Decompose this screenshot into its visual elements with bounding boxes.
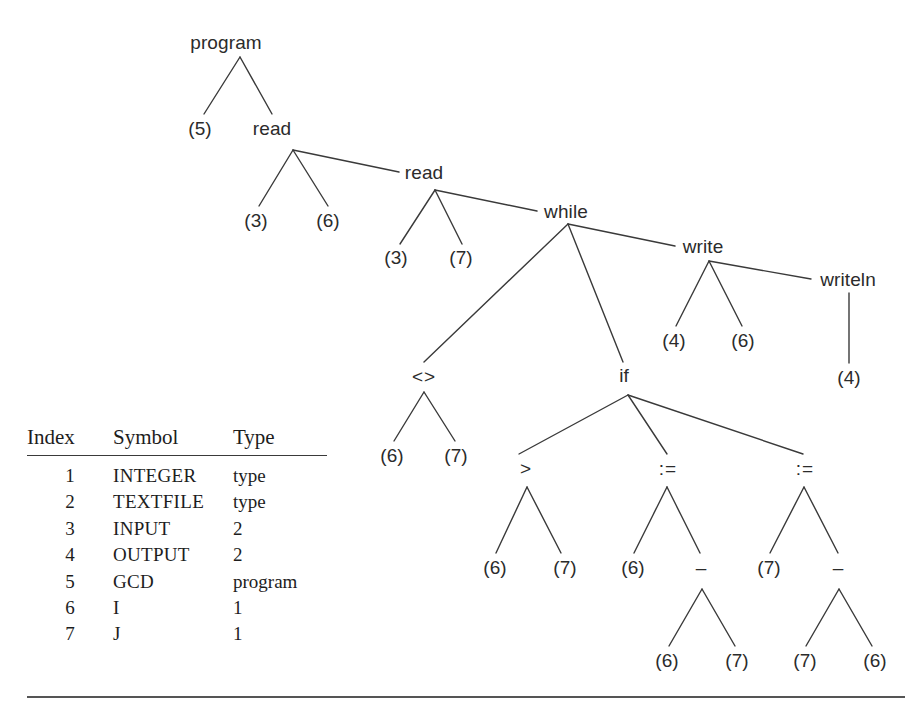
table-row: 7J1 bbox=[27, 621, 327, 647]
tree-node-write: write bbox=[683, 237, 724, 256]
tree-node-n7c: (7) bbox=[553, 558, 577, 577]
tree-edge-gt-to-n6d bbox=[496, 487, 527, 553]
tree-edge-if-to-gt bbox=[519, 395, 628, 454]
tree-edge-minus2-to-n6g bbox=[839, 589, 872, 646]
tree-edge-while-to-write bbox=[568, 224, 675, 246]
tree-edge-assign1-to-minus1 bbox=[667, 487, 700, 553]
cell-index: 2 bbox=[27, 489, 113, 515]
cell-index: 3 bbox=[27, 516, 113, 542]
tree-node-n6b: (6) bbox=[731, 331, 755, 350]
tree-edge-assign2-to-n7e bbox=[770, 487, 804, 553]
tree-node-n7d: (7) bbox=[725, 651, 749, 670]
cell-index: 1 bbox=[27, 456, 113, 490]
tree-edge-ne-to-n6c bbox=[394, 392, 424, 441]
tree-edge-ne-to-n7b bbox=[424, 392, 455, 441]
tree-edge-write-to-writeln bbox=[709, 261, 811, 279]
table-row: 5GCDprogram bbox=[27, 568, 327, 594]
tree-edge-program-to-read1 bbox=[240, 57, 272, 114]
table-row: 2TEXTFILEtype bbox=[27, 489, 327, 515]
cell-index: 5 bbox=[27, 568, 113, 594]
table-row: 1INTEGERtype bbox=[27, 456, 327, 490]
tree-edge-read1-to-n6a bbox=[293, 150, 328, 206]
tree-node-n3a: (3) bbox=[244, 211, 268, 230]
tree-node-n5: (5) bbox=[188, 119, 212, 138]
cell-index: 4 bbox=[27, 542, 113, 568]
cell-index: 6 bbox=[27, 595, 113, 621]
tree-node-n6e: (6) bbox=[621, 558, 645, 577]
tree-edge-minus1-to-n6f bbox=[669, 589, 702, 646]
tree-node-n7a: (7) bbox=[449, 248, 473, 267]
tree-node-n6a: (6) bbox=[316, 211, 340, 230]
tree-node-n6d: (6) bbox=[483, 558, 507, 577]
tree-node-minus2: – bbox=[833, 558, 844, 577]
tree-node-read2: read bbox=[405, 163, 443, 182]
tree-node-n7f: (7) bbox=[793, 651, 817, 670]
cell-type: 2 bbox=[233, 542, 327, 568]
tree-edge-assign2-to-minus2 bbox=[804, 487, 838, 553]
tree-node-n6f: (6) bbox=[655, 651, 679, 670]
cell-symbol: GCD bbox=[113, 568, 233, 594]
tree-node-assign1: := bbox=[659, 459, 677, 478]
tree-edge-while-to-ne bbox=[424, 224, 568, 362]
tree-node-gt: > bbox=[520, 459, 532, 478]
table-row: 6I1 bbox=[27, 595, 327, 621]
cell-symbol: INPUT bbox=[113, 516, 233, 542]
tree-edge-read1-to-n3a bbox=[259, 150, 293, 206]
cell-symbol: INTEGER bbox=[113, 456, 233, 490]
cell-symbol: TEXTFILE bbox=[113, 489, 233, 515]
tree-edge-program-to-n5 bbox=[204, 57, 240, 114]
tree-edge-assign1-to-n6e bbox=[634, 487, 667, 553]
table-row: 3INPUT2 bbox=[27, 516, 327, 542]
tree-edge-gt-to-n7c bbox=[527, 487, 561, 553]
tree-edge-read1-to-read2 bbox=[293, 150, 399, 172]
cell-index: 7 bbox=[27, 621, 113, 647]
tree-node-minus1: – bbox=[696, 558, 707, 577]
cell-type: type bbox=[233, 456, 327, 490]
figure-page: program(5)read(3)(6)read(3)(7)whilewrite… bbox=[0, 0, 923, 714]
cell-symbol: J bbox=[113, 621, 233, 647]
tree-edge-if-to-assign1 bbox=[628, 395, 667, 454]
tree-node-n4b: (4) bbox=[837, 368, 861, 387]
cell-type: program bbox=[233, 568, 327, 594]
bottom-rule-divider bbox=[27, 696, 905, 698]
cell-symbol: I bbox=[113, 595, 233, 621]
tree-edge-if-to-assign2 bbox=[628, 395, 803, 454]
tree-node-writeln: writeln bbox=[820, 270, 876, 289]
tree-edge-write-to-n4a bbox=[676, 261, 709, 326]
column-header-symbol: Symbol bbox=[113, 425, 233, 456]
tree-edge-read2-to-while bbox=[435, 190, 537, 211]
symbol-table-body: 1INTEGERtype2TEXTFILEtype3INPUT24OUTPUT2… bbox=[27, 456, 327, 648]
cell-type: 2 bbox=[233, 516, 327, 542]
tree-node-program: program bbox=[190, 33, 261, 52]
tree-edge-read2-to-n3b bbox=[400, 190, 435, 244]
column-header-index: Index bbox=[27, 425, 113, 456]
tree-edge-minus1-to-n7d bbox=[702, 589, 735, 646]
tree-node-ne: <> bbox=[412, 367, 436, 386]
tree-node-n7b: (7) bbox=[444, 446, 468, 465]
cell-symbol: OUTPUT bbox=[113, 542, 233, 568]
tree-edge-while-to-if bbox=[568, 224, 623, 362]
tree-node-n6c: (6) bbox=[380, 446, 404, 465]
tree-node-n4a: (4) bbox=[662, 331, 686, 350]
tree-edge-minus2-to-n7f bbox=[806, 589, 839, 646]
tree-node-read1: read bbox=[253, 119, 291, 138]
tree-edge-write-to-n6b bbox=[709, 261, 742, 326]
symbol-table: Index Symbol Type 1INTEGERtype2TEXTFILEt… bbox=[27, 425, 327, 647]
cell-type: 1 bbox=[233, 621, 327, 647]
tree-edge-read2-to-n7a bbox=[435, 190, 462, 244]
cell-type: 1 bbox=[233, 595, 327, 621]
tree-node-if: if bbox=[619, 366, 629, 385]
cell-type: type bbox=[233, 489, 327, 515]
tree-node-while: while bbox=[544, 202, 588, 221]
tree-node-assign2: := bbox=[796, 459, 814, 478]
column-header-type: Type bbox=[233, 425, 327, 456]
table-row: 4OUTPUT2 bbox=[27, 542, 327, 568]
tree-node-n3b: (3) bbox=[384, 248, 408, 267]
table-header-row: Index Symbol Type bbox=[27, 425, 327, 456]
tree-node-n6g: (6) bbox=[863, 651, 887, 670]
tree-node-n7e: (7) bbox=[757, 558, 781, 577]
